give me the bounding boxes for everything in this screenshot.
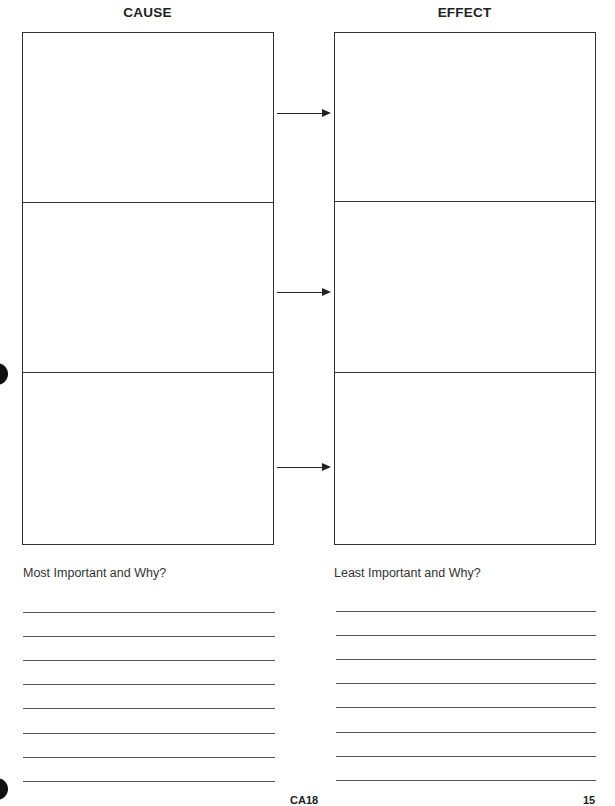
footer-code: CA18 [290,794,318,806]
answer-line[interactable] [336,659,596,660]
effect-row-divider-2 [335,372,595,373]
hole-punch-mark [0,778,8,800]
cause-row-divider-1 [23,202,273,203]
cause-row-divider-2 [23,372,273,373]
effect-box-2[interactable] [336,204,594,370]
answer-line[interactable] [23,636,275,637]
arrow-right-icon [277,292,329,293]
answer-line[interactable] [336,683,596,684]
answer-line[interactable] [23,733,275,734]
answer-line[interactable] [336,707,596,708]
answer-line[interactable] [336,635,596,636]
answer-line[interactable] [23,684,275,685]
cause-box-3[interactable] [24,374,272,542]
answer-line[interactable] [336,732,596,733]
answer-line[interactable] [336,611,596,612]
hole-punch-mark [0,363,8,385]
answer-line[interactable] [336,756,596,757]
cause-heading: CAUSE [22,5,273,20]
answer-line[interactable] [23,781,275,782]
cause-box-2[interactable] [24,204,272,370]
least-important-prompt: Least Important and Why? [334,566,481,580]
arrow-right-icon [277,113,329,114]
effect-row-divider-1 [335,201,595,202]
answer-line[interactable] [23,708,275,709]
arrow-right-icon [277,467,329,468]
answer-line[interactable] [23,757,275,758]
most-important-prompt: Most Important and Why? [23,566,166,580]
effect-box-3[interactable] [336,374,594,542]
answer-line[interactable] [336,780,596,781]
effect-heading: EFFECT [334,5,595,20]
answer-line[interactable] [23,660,275,661]
cause-box-1[interactable] [24,34,272,200]
answer-line[interactable] [23,612,275,613]
footer-page-number: 15 [583,794,595,806]
effect-box-1[interactable] [336,34,594,200]
